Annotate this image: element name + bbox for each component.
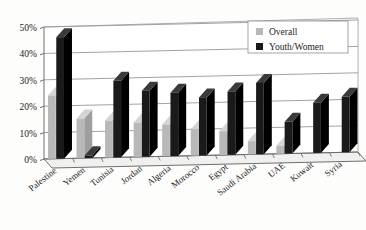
y-tick-label: 40% (20, 49, 38, 59)
bar-front-face (113, 81, 121, 158)
y-axis-ticks: 0%10%20%30%40%50% (20, 23, 44, 165)
bar-side-face (207, 88, 215, 155)
legend-label: Youth/Women (269, 42, 324, 52)
bar-front-face (48, 95, 56, 158)
bar-front-face (199, 97, 207, 155)
bar-front-face (162, 125, 170, 157)
bar-youth-women (113, 72, 129, 158)
bar-youth-women (342, 88, 358, 152)
y-tick-mark (40, 80, 44, 82)
bar-chart: 0%10%20%30%40%50% PalestineYemenTunisiaJ… (0, 0, 366, 230)
y-tick-mark (40, 159, 44, 161)
x-tick-label: Palestine (27, 165, 59, 193)
bar-front-face (142, 91, 150, 157)
bar-front-face (77, 119, 85, 159)
y-tick-label: 20% (20, 102, 38, 112)
chart-svg: 0%10%20%30%40%50% PalestineYemenTunisiaJ… (0, 0, 366, 230)
bar-side-face (349, 88, 357, 152)
legend-label: Overall (269, 27, 298, 37)
bar-front-face (256, 83, 264, 154)
bar-front-face (342, 97, 350, 152)
bar-front-face (248, 141, 256, 154)
bar-youth-women (199, 88, 215, 155)
chart-legend: OverallYouth/Women (248, 21, 348, 53)
bar-side-face (178, 84, 186, 156)
y-tick-label: 50% (20, 23, 38, 33)
bar-youth-women (313, 94, 329, 153)
bar-side-face (321, 94, 329, 153)
y-tick-mark (40, 27, 44, 29)
bar-youth-women (56, 28, 72, 158)
bar-youth-women (142, 82, 158, 157)
legend-swatch (256, 28, 263, 35)
y-tick-label: 10% (20, 129, 38, 139)
bar-front-face (134, 123, 142, 157)
bar-side-face (264, 74, 272, 154)
bar-front-face (276, 146, 284, 154)
y-tick-label: 0% (24, 155, 37, 165)
bar-side-face (64, 28, 72, 158)
bar-front-face (219, 131, 227, 155)
bar-front-face (105, 121, 113, 158)
y-tick-label: 30% (20, 76, 38, 86)
bar-front-face (313, 103, 321, 153)
bar-side-face (150, 82, 158, 157)
x-tick-label: Morocco (169, 162, 201, 190)
bar-side-face (121, 72, 129, 158)
y-tick-mark (40, 53, 44, 55)
bar-front-face (228, 91, 236, 154)
bar-side-face (235, 82, 243, 154)
bar-front-face (191, 129, 199, 155)
bar-youth-women (170, 84, 186, 156)
legend-swatch (256, 43, 263, 50)
bar-front-face (56, 37, 64, 158)
bar-youth-women (228, 82, 244, 154)
y-tick-mark (40, 106, 44, 108)
bar-youth-women (256, 74, 272, 154)
bar-front-face (285, 122, 293, 154)
y-tick-mark (40, 133, 44, 135)
x-tick-label: Tunisia (88, 164, 115, 188)
x-tick-label: Algeria (145, 163, 172, 188)
bar-front-face (170, 93, 178, 156)
bar-front-face (85, 155, 93, 158)
